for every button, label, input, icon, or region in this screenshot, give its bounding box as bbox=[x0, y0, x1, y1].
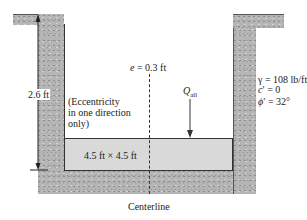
depth-dimension-label: 2.6 ft bbox=[27, 89, 50, 100]
eccentricity-note-line-2: in one direction bbox=[68, 107, 131, 118]
soil-cohesion: c′ = 0 bbox=[258, 84, 280, 95]
soil-friction-angle: ϕ′ = 32° bbox=[258, 96, 290, 107]
eccentricity-note-line-1: (Eccentricity bbox=[68, 96, 120, 107]
arrows-layer bbox=[0, 0, 307, 220]
eccentricity-note-line-3: only) bbox=[68, 118, 89, 129]
